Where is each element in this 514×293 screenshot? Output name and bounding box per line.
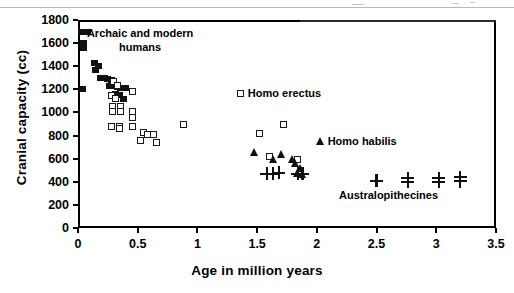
data-point-plus [296,167,309,180]
x-tick-label: 3 [406,238,466,251]
y-tick-label: 1000 [9,106,69,119]
legend-marker-open-square [237,90,244,97]
y-tick-label: 600 [9,153,69,166]
data-point-open-square [129,123,136,130]
x-tick-mark [77,228,79,233]
x-tick-mark [495,228,497,233]
data-point-filled-square [122,85,129,91]
scan-artifact-fleck [352,4,364,5]
x-tick-label: 1 [167,238,227,251]
x-tick-mark [435,228,437,233]
x-tick-label: 1.5 [227,238,287,251]
chart-figure: Cranial capacity (cc) 020040060080010001… [0,0,514,293]
data-point-open-square [117,108,124,115]
data-point-open-square [280,121,287,128]
legend-marker-filled-triangle [316,137,324,145]
x-tick-mark [256,228,258,233]
y-tick-label: 400 [9,176,69,189]
scan-artifact-line [0,7,514,8]
data-point-filled-square [92,67,99,73]
legend-entry: Homo erectus [237,86,321,99]
x-tick-mark [316,228,318,233]
data-point-open-square [129,88,136,95]
y-tick-label: 1200 [9,83,69,96]
plot-annotation: Archaic and modern humans [80,27,200,55]
x-tick-label: 0 [48,238,108,251]
y-tick-label: 800 [9,130,69,143]
data-point-open-square [150,131,157,138]
data-point-plus [370,174,383,187]
plot-annotation: Australopithecines [329,189,449,203]
y-tick-label: 1600 [9,37,69,50]
y-tick-label: 0 [9,222,69,235]
data-point-open-square [112,95,119,102]
legend-entry: Homo habilis [316,134,397,147]
data-point-plus [454,175,467,188]
data-point-plus [272,166,285,179]
data-point-filled-triangle [277,150,285,158]
plot-frame-top [300,20,496,22]
x-tick-mark [196,228,198,233]
data-point-open-square [114,82,121,89]
x-tick-label: 2.5 [347,238,407,251]
y-tick-label: 200 [9,199,69,212]
data-point-filled-square [79,86,86,92]
x-tick-mark [137,228,139,233]
scan-artifact-fleck [452,3,459,4]
y-tick-label: 1800 [9,14,69,27]
data-point-open-square [108,123,115,130]
data-point-filled-triangle [250,148,258,156]
data-point-open-square [180,121,187,128]
y-tick-label: 1400 [9,60,69,73]
x-tick-label: 3.5 [466,238,514,251]
x-axis-title: Age in million years [0,263,514,278]
data-point-open-square [109,108,116,115]
scan-artifact-fleck [470,2,475,3]
data-point-plus [432,175,445,188]
x-tick-mark [376,228,378,233]
x-tick-label: 2 [287,238,347,251]
data-point-open-square [129,114,136,121]
data-point-plus [401,175,414,188]
data-point-open-square [137,137,144,144]
data-point-open-square [153,139,160,146]
legend-label: Homo erectus [248,87,321,99]
data-point-open-square [116,125,123,132]
data-point-filled-square [120,96,127,102]
legend-label: Homo habilis [328,135,397,147]
x-tick-label: 0.5 [108,238,168,251]
data-point-open-square [256,130,263,137]
